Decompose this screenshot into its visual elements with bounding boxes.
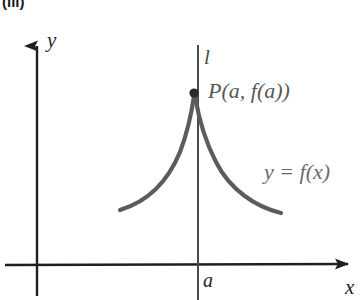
point-p-marker: [189, 88, 198, 97]
curve-left-branch: [120, 96, 194, 210]
x-axis-label: x: [345, 277, 354, 298]
tangent-line-label: l: [204, 47, 210, 68]
function-label: y = f(x): [264, 161, 330, 183]
y-axis-label: y: [47, 30, 56, 51]
figure-container: (iii) y x l P(a, f(a)) y = f(x) a: [0, 0, 364, 300]
x-axis-line: [5, 264, 348, 265]
x-value-a-label: a: [203, 270, 213, 290]
point-p-label: P(a, f(a)): [208, 80, 290, 102]
curve-right-branch: [195, 96, 281, 213]
